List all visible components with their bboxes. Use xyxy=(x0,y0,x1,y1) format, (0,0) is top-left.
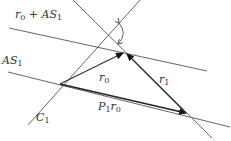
diagram-canvas: r0 + AS1 AS1 C1 r0 r1 P1r0 xyxy=(0,0,231,141)
r1-label: r1 xyxy=(159,73,169,87)
projection-label: P1r0 xyxy=(97,100,121,114)
r0-label: r0 xyxy=(99,71,109,85)
subspace-label: AS1 xyxy=(1,54,23,68)
constraint-label: C1 xyxy=(36,111,50,125)
r1-vector xyxy=(127,54,186,113)
projection-vector xyxy=(60,84,186,113)
shifted-subspace-label: r0 + AS1 xyxy=(15,8,62,22)
r0-vector xyxy=(60,53,123,84)
angle-arc-icon xyxy=(118,23,123,44)
